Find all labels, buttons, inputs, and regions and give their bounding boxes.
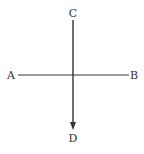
label-a: A	[6, 69, 16, 82]
cross-diagram: C A B D	[0, 0, 144, 154]
label-c: C	[69, 7, 77, 20]
label-d: D	[69, 132, 78, 145]
label-b: B	[130, 69, 138, 82]
arrowhead-down-icon	[70, 122, 76, 130]
